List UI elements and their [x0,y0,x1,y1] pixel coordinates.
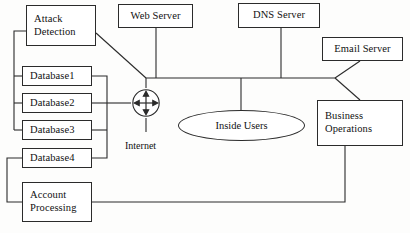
node-account-processing[interactable]: Account Processing [22,182,92,222]
node-database2-label: Database2 [30,97,75,110]
node-business-operations[interactable]: Business Operations [317,100,403,146]
node-web-server-label: Web Server [130,10,180,23]
wire-account-processing-to-business-operations [92,146,345,202]
node-database4-label: Database4 [30,152,75,165]
wire-junction-to-business-operations [335,78,360,100]
node-email-server[interactable]: Email Server [322,37,403,61]
node-inside-users-label: Inside Users [215,120,267,131]
node-database2[interactable]: Database2 [22,93,92,113]
wire-junction-to-email-server [335,61,360,78]
node-inside-users[interactable]: Inside Users [178,110,305,141]
node-database1-label: Database1 [30,70,75,83]
node-dns-server-label: DNS Server [253,9,305,22]
node-database1[interactable]: Database1 [22,66,92,86]
wire-database-right-bus [92,76,107,158]
network-diagram: Attack Detection Web Server DNS Server E… [0,0,410,233]
node-database4[interactable]: Database4 [22,148,92,168]
internet-label: Internet [125,140,156,151]
wire-attack-detection-to-trunk [96,33,146,78]
node-database3-label: Database3 [30,124,75,137]
node-attack-detection-label-line2: Detection [34,26,76,39]
node-database3[interactable]: Database3 [22,120,92,140]
node-account-processing-label-line1: Account [30,189,66,202]
router-four-way-arrow-icon[interactable] [131,88,161,118]
node-business-operations-label-line1: Business [325,110,363,123]
wire-database4-to-account-processing [7,158,22,202]
node-email-server-label: Email Server [334,43,390,56]
node-account-processing-label-line2: Processing [30,202,77,215]
node-attack-detection-label-line1: Attack [34,13,63,26]
node-dns-server[interactable]: DNS Server [238,3,320,28]
node-web-server[interactable]: Web Server [118,4,193,28]
node-business-operations-label-line2: Operations [325,123,372,136]
node-attack-detection[interactable]: Attack Detection [26,5,96,46]
